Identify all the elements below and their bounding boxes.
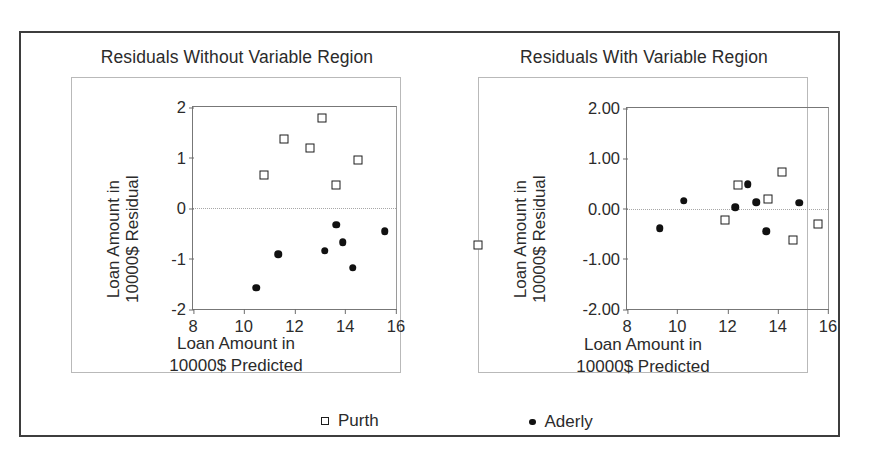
data-point-aderly [381,227,389,235]
x-axis-tick-left: 14 [336,309,354,336]
y-axis-tick-right: -1.00 [582,249,627,268]
data-point-purth [763,194,772,203]
zero-reference-line-right [627,209,828,210]
x-axis-tick-left: 12 [285,309,303,336]
y-axis-tick-right: 2.00 [588,99,627,118]
y-axis-label-left-line2: 10000$ Residual [123,175,142,303]
x-axis-tick-left: 8 [188,309,197,336]
data-point-aderly [274,251,282,259]
y-axis-tick-right: 0.00 [588,199,627,218]
data-point-aderly [656,224,664,232]
plot-area-left: 210-1-2810121416 [192,106,397,310]
data-point-aderly [349,264,357,272]
y-axis-label-left: Loan Amount in 10000$ Residual [104,175,142,303]
x-axis-label-right-line1: Loan Amount in [479,334,807,356]
data-point-purth [733,180,742,189]
data-point-purth [353,155,362,164]
data-point-aderly [731,204,739,212]
data-point-purth [305,144,314,153]
y-axis-tick-left: 1 [177,148,193,167]
legend-label-purth: Purth [338,411,379,431]
y-axis-label-right-line2: 10000$ Residual [530,175,549,303]
data-point-purth [260,171,269,180]
x-axis-tick-right: 8 [622,309,631,336]
y-axis-tick-right: -2.00 [582,300,627,319]
x-axis-tick-right: 14 [769,309,787,336]
panel-box-right: Loan Amount in 10000$ Residual 2.001.000… [478,77,808,373]
y-axis-tick-left: 2 [177,98,193,117]
x-axis-tick-left: 16 [387,309,405,336]
data-point-purth [777,167,786,176]
data-point-aderly [253,284,261,292]
x-axis-label-right-line2: 10000$ Predicted [479,356,807,378]
data-point-aderly [753,199,761,207]
x-axis-tick-right: 10 [668,309,686,336]
legend-label-aderly: Aderly [545,412,593,432]
data-point-aderly [321,247,329,255]
y-axis-label-right: Loan Amount in 10000$ Residual [511,175,549,303]
data-point-purth [813,219,822,228]
orphan-purth-marker [474,241,483,250]
data-point-purth [720,216,729,225]
x-axis-label-left: Loan Amount in 10000$ Predicted [72,333,400,377]
x-axis-label-left-line1: Loan Amount in [72,333,400,355]
data-point-purth [332,181,341,190]
x-axis-label-right: Loan Amount in 10000$ Predicted [479,334,807,378]
filled-circle-marker-icon [529,419,536,426]
y-axis-tick-left: -1 [171,249,193,268]
figure-frame: Residuals Without Variable Region Loan A… [19,31,840,437]
legend-item-aderly: Aderly [529,412,593,432]
chart-panel-without-variable-region: Residuals Without Variable Region Loan A… [51,47,423,402]
data-point-purth [280,134,289,143]
chart-title-left: Residuals Without Variable Region [51,47,423,68]
data-point-purth [318,113,327,122]
x-axis-tick-right: 16 [819,309,837,336]
y-axis-tick-right: 1.00 [588,149,627,168]
data-point-aderly [680,197,688,205]
data-point-aderly [795,199,803,207]
legend-item-purth: Purth [321,411,379,431]
y-axis-label-right-line1: Loan Amount in [511,175,530,303]
x-axis-tick-left: 10 [235,309,253,336]
zero-reference-line-left [193,208,396,209]
open-square-marker-icon [321,417,329,425]
panel-box-left: Loan Amount in 10000$ Residual 210-1-281… [71,77,401,373]
data-point-purth [788,236,797,245]
data-point-aderly [339,239,347,247]
plot-area-right: 2.001.000.00-1.00-2.00810121416 [626,107,829,310]
data-point-aderly [763,227,771,235]
chart-panel-with-variable-region: Residuals With Variable Region Loan Amou… [458,47,830,402]
data-point-aderly [744,181,752,189]
chart-title-right: Residuals With Variable Region [458,47,830,68]
x-axis-label-left-line2: 10000$ Predicted [72,355,400,377]
x-axis-tick-right: 12 [718,309,736,336]
data-point-aderly [333,221,341,229]
y-axis-label-left-line1: Loan Amount in [104,175,123,303]
y-axis-tick-left: 0 [177,199,193,218]
